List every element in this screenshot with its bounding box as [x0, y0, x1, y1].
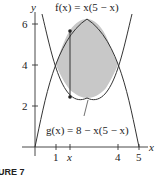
- shaded-region: [56, 19, 118, 98]
- x-tick-label-5: 5: [136, 151, 142, 163]
- x-axis-label: x: [148, 141, 154, 153]
- x-tick-label-4: 4: [115, 151, 121, 163]
- x-tick-label-x: x: [66, 151, 72, 163]
- f-label: f(x) = x(5 − x): [55, 1, 119, 14]
- y-tick-label-4: 4: [22, 59, 28, 71]
- x-tick-label-1: 1: [53, 151, 59, 163]
- segment-top-dot: [68, 29, 72, 33]
- y-tick-label-6: 6: [22, 18, 28, 30]
- segment-bottom-dot: [68, 95, 72, 99]
- figure-caption: URE 7: [0, 167, 25, 176]
- g-label: g(x) = 8 − x(5 − x): [46, 124, 129, 137]
- g-label-pointer: [84, 100, 88, 116]
- area-between-curves-figure: y x 6 4 2 1 x 4 5 f(x) = x(5 − x) g(x) =…: [0, 0, 158, 176]
- y-axis-label: y: [30, 1, 36, 13]
- y-tick-label-2: 2: [22, 100, 28, 112]
